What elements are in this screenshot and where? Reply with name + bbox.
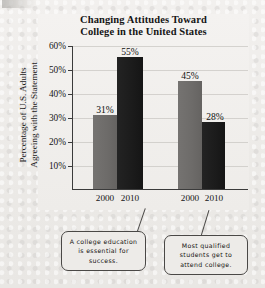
callout-2-line-2: students get to xyxy=(180,250,232,259)
chart-title: Changing Attitudes Toward College in the… xyxy=(38,14,249,39)
y-tick-50 xyxy=(68,70,73,71)
x-tick-label-group2-2000: 2000 xyxy=(181,193,199,203)
callout-2-line-1: Most qualified xyxy=(180,241,232,250)
callout-1-line-3: success. xyxy=(70,256,138,265)
y-tick-60 xyxy=(68,46,73,47)
callout-1-line-2: is essential for xyxy=(70,246,138,255)
y-tick-30 xyxy=(68,118,73,119)
gridline-40 xyxy=(72,94,248,95)
y-tick-label-60: 60% xyxy=(49,41,66,51)
y-axis-label: Percentage of U.S. Adults Agreeing with … xyxy=(18,40,40,190)
x-tick-label-group1-2010: 2010 xyxy=(121,193,139,203)
y-axis-label-line-2: Agreeing with the Statement xyxy=(29,40,40,190)
bar-value-group1-2010: 55% xyxy=(121,46,139,57)
bar-value-group1-2000: 31% xyxy=(96,104,114,115)
y-tick-label-40: 40% xyxy=(49,89,66,99)
x-tick-label-group1-2000: 2000 xyxy=(96,193,114,203)
y-axis-label-line-1: Percentage of U.S. Adults xyxy=(18,40,29,190)
chart-title-line-2: College in the United States xyxy=(38,26,249,38)
bar-group1-2000[interactable] xyxy=(93,115,117,189)
callout-statement-1: A college education is essential for suc… xyxy=(61,231,146,271)
y-tick-10 xyxy=(68,166,73,167)
scan-artifact xyxy=(2,0,36,8)
callout-tail-right xyxy=(200,210,210,238)
y-tick-label-30: 30% xyxy=(49,113,66,123)
y-tick-20 xyxy=(68,142,73,143)
callout-2-line-3: attend college. xyxy=(180,260,232,269)
callout-statement-2: Most qualified students get to attend co… xyxy=(164,235,248,275)
y-tick-label-10: 10% xyxy=(49,161,66,171)
bar-group2-2000[interactable] xyxy=(178,81,202,189)
bar-group2-2010[interactable] xyxy=(202,122,225,189)
y-tick-label-50: 50% xyxy=(49,65,66,75)
x-tick-label-group2-2010: 2010 xyxy=(205,193,223,203)
y-tick-40 xyxy=(68,94,73,95)
gridline-50 xyxy=(72,70,248,71)
chart-title-line-1: Changing Attitudes Toward xyxy=(38,14,249,26)
bar-value-group2-2000: 45% xyxy=(181,70,199,81)
callout-1-line-1: A college education xyxy=(70,237,138,246)
plot-area: 60% 50% 40% 30% 20% 10% 31% 55% 2000 201… xyxy=(72,46,248,190)
gridline-60 xyxy=(72,46,248,47)
bar-group1-2010[interactable] xyxy=(117,57,143,189)
bar-value-group2-2010: 28% xyxy=(206,111,224,122)
x-axis-line xyxy=(72,189,248,190)
y-tick-label-20: 20% xyxy=(49,137,66,147)
